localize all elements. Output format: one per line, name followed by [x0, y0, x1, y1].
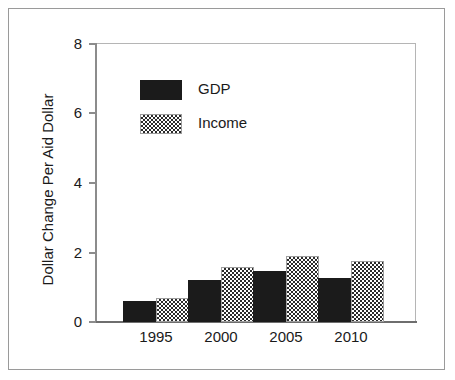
bar-income-1995: [156, 298, 189, 322]
bar-gdp-2005: [253, 271, 286, 322]
y-tick-label-4: 4: [56, 175, 82, 190]
y-tick-label-6: 6: [56, 105, 82, 120]
x-tick-label-2010: 2010: [311, 329, 391, 345]
legend-swatch-gdp-icon: [140, 80, 182, 100]
y-tick-label-8: 8: [56, 36, 82, 51]
legend-label-gdp: GDP: [198, 79, 231, 99]
y-tick-label-2: 2: [56, 245, 82, 260]
bar-gdp-1995: [123, 301, 156, 322]
y-axis-title: Dollar Change Per Aid Dollar: [40, 65, 55, 315]
bar-gdp-2010: [318, 278, 351, 322]
y-axis-line: [95, 43, 97, 323]
bar-income-2005: [286, 256, 319, 322]
bar-gdp-2000: [188, 280, 221, 322]
y-tick-label-0: 0: [56, 314, 82, 329]
legend-label-income: Income: [198, 113, 247, 133]
chart-figure: Dollar Change Per Aid Dollar 8 6 4 2 0 1…: [0, 0, 455, 380]
bar-income-2000: [221, 267, 254, 322]
legend-swatch-income-icon: [140, 114, 182, 134]
bar-income-2010: [351, 261, 384, 322]
